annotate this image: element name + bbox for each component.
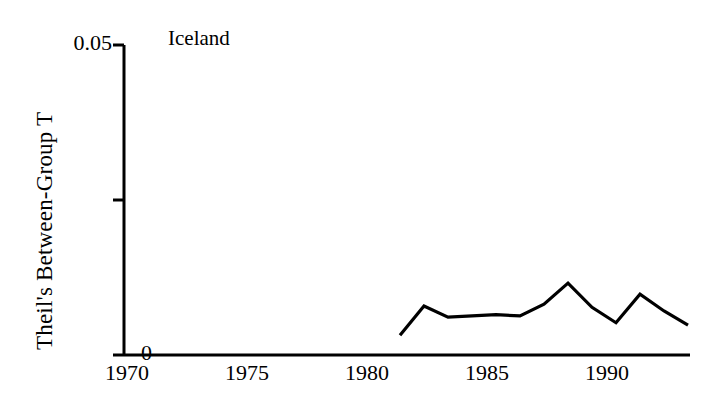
- data-series-group: [400, 283, 688, 335]
- x-tick-label-1985: 1985: [452, 360, 522, 386]
- y-axis-label: Theil's Between-Group T: [22, 10, 68, 350]
- x-tick-label-1970: 1970: [92, 360, 162, 386]
- x-tick-label-1980: 1980: [332, 360, 402, 386]
- axes-group: [113, 45, 690, 355]
- chart-title: Iceland: [168, 25, 230, 51]
- x-tick-label-1990: 1990: [572, 360, 642, 386]
- x-tick-label-1975: 1975: [212, 360, 282, 386]
- series-line-iceland: [400, 283, 688, 335]
- chart-figure: Iceland Theil's Between-Group T 0.05 0 1…: [0, 0, 709, 408]
- y-tick-label-top: 0.05: [22, 30, 112, 56]
